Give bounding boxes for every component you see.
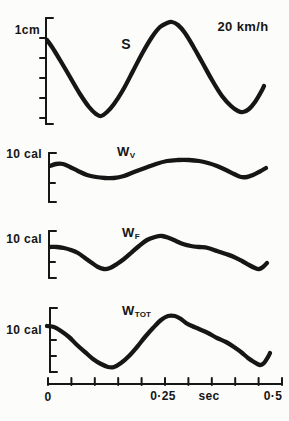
curve-label-wtot: WTOT bbox=[122, 304, 151, 317]
wv-scale-label: 10 cal bbox=[6, 148, 42, 160]
curve-label-wtot-sub: TOT bbox=[135, 310, 152, 319]
curve-wf bbox=[50, 236, 267, 269]
curve-label-wv-sub: V bbox=[130, 151, 136, 160]
curve-label-wtot-main: W bbox=[122, 303, 135, 318]
curve-label-wf-sub: F bbox=[135, 232, 140, 241]
x-tick-label-025: 0·25 bbox=[150, 390, 176, 402]
x-axis-unit: sec bbox=[198, 390, 219, 402]
wtot-scale-label: 10 cal bbox=[6, 324, 42, 336]
figure-canvas: 1cm20 km/hSWV10 calWF10 calWTOT10 cal00·… bbox=[0, 0, 289, 421]
curve-label-s: S bbox=[121, 37, 131, 51]
curve-label-wv: WV bbox=[117, 145, 135, 158]
curve-s bbox=[47, 22, 264, 116]
curve-label-wf: WF bbox=[122, 226, 140, 239]
x-tick-label-05: 0·5 bbox=[264, 390, 283, 402]
speed-annotation: 20 km/h bbox=[217, 20, 268, 33]
curve-wtot bbox=[47, 316, 270, 368]
figure-svg bbox=[0, 0, 289, 421]
curve-wv bbox=[50, 160, 266, 178]
curve-label-wf-main: W bbox=[122, 225, 135, 240]
x-tick-label-0: 0 bbox=[44, 391, 51, 403]
curve-label-wv-main: W bbox=[117, 144, 130, 159]
s-scale-label: 1cm bbox=[15, 24, 40, 36]
wf-scale-label: 10 cal bbox=[6, 233, 42, 245]
